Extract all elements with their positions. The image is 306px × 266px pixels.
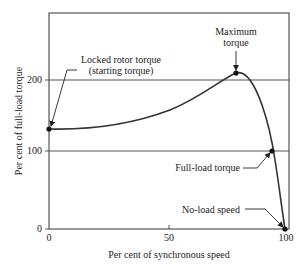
point-full-load [269, 148, 274, 153]
point-no-load [282, 226, 287, 231]
arrow-full-load-icon [243, 153, 270, 168]
x-tick-50: 50 [164, 232, 174, 243]
arrow-no-load-icon [245, 209, 283, 227]
y-tick-0: 0 [37, 223, 42, 234]
torque-speed-chart: 200 100 0 0 50 100 Per cent of synchrono… [0, 0, 306, 266]
plot-frame [49, 13, 289, 229]
x-tick-0: 0 [47, 232, 52, 243]
point-max-torque [233, 70, 238, 75]
annotation-full-load: Full-load torque [175, 162, 240, 173]
y-tick-200: 200 [27, 74, 42, 85]
x-axis-label: Per cent of synchronous speed [108, 249, 230, 260]
annotation-max-torque: Maximum [215, 26, 257, 37]
annotation-no-load: No-load speed [182, 204, 240, 215]
y-axis-label: Per cent of full-load torque [13, 66, 24, 175]
annotation-max-torque-sub: torque [223, 37, 249, 48]
point-locked-rotor [46, 126, 51, 131]
y-tick-100: 100 [27, 145, 42, 156]
x-tick-100: 100 [279, 232, 294, 243]
annotation-locked-rotor: Locked rotor torque [81, 54, 162, 65]
arrow-locked-rotor-icon [51, 70, 77, 126]
annotation-locked-rotor-sub: (starting torque) [89, 65, 154, 77]
